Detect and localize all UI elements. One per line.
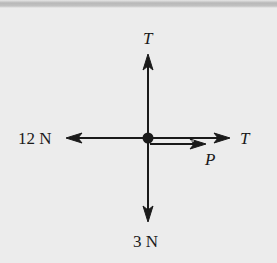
label-p-force: P bbox=[205, 151, 215, 168]
label-down-force: 3 N bbox=[133, 233, 158, 250]
label-left-force: 12 N bbox=[18, 130, 52, 147]
label-up-force: T bbox=[143, 30, 152, 47]
particle-dot bbox=[143, 133, 154, 144]
label-right-force: T bbox=[240, 130, 249, 147]
